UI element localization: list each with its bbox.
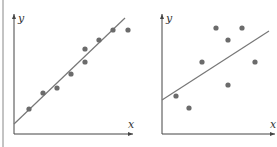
x-arrow-icon bbox=[128, 132, 133, 136]
data-point bbox=[186, 105, 191, 110]
data-point bbox=[82, 59, 87, 64]
y-axis-label: y bbox=[165, 12, 173, 25]
data-point bbox=[68, 71, 73, 76]
y-arrow-icon bbox=[160, 14, 164, 19]
x-axis-label: x bbox=[128, 118, 135, 131]
scatter-charts: yxyx bbox=[0, 0, 277, 147]
data-point bbox=[110, 27, 115, 32]
x-axis-label: x bbox=[270, 118, 277, 131]
x-arrow-icon bbox=[270, 132, 275, 136]
data-point bbox=[82, 46, 87, 51]
data-point bbox=[252, 59, 257, 64]
data-point bbox=[173, 93, 178, 98]
data-point bbox=[125, 27, 130, 32]
data-point bbox=[239, 25, 244, 30]
data-point bbox=[54, 85, 59, 90]
data-point bbox=[26, 106, 31, 111]
y-axis-label: y bbox=[17, 12, 25, 25]
data-point bbox=[199, 59, 204, 64]
scatter-plot-1: yx bbox=[12, 12, 135, 136]
data-point bbox=[225, 37, 230, 42]
y-arrow-icon bbox=[12, 14, 16, 19]
trend-line bbox=[162, 31, 269, 100]
data-point bbox=[225, 82, 230, 87]
data-point bbox=[40, 90, 45, 95]
data-point bbox=[213, 25, 218, 30]
scatter-plot-2: yx bbox=[160, 12, 277, 136]
data-point bbox=[96, 37, 101, 42]
